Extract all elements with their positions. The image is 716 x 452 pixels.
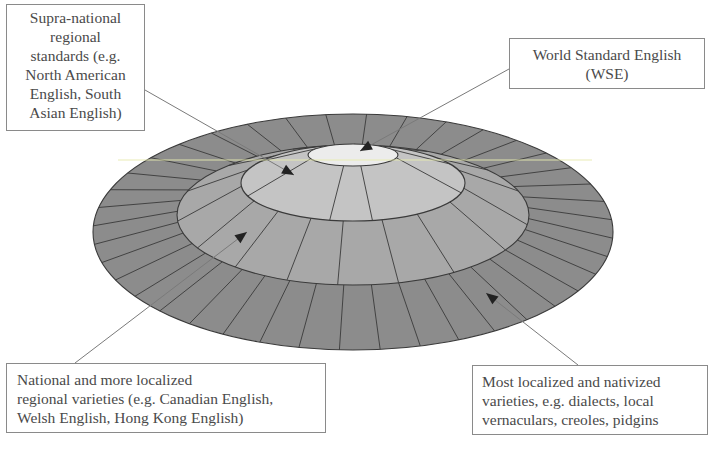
label-line: Most localized and nativized	[482, 372, 698, 391]
label-line: standards (e.g.	[13, 46, 138, 65]
label-line: National and more localized	[17, 370, 315, 389]
label-line: varieties, e.g. dialects, local	[482, 391, 698, 410]
label-line: regional varieties (e.g. Canadian Englis…	[17, 389, 315, 408]
label-line: English, South	[13, 84, 138, 103]
label-supranational-standards: Supra-national regional standards (e.g. …	[6, 4, 145, 131]
label-line: regional	[13, 27, 138, 46]
world-standard-english-core	[308, 144, 398, 166]
label-line: Welsh English, Hong Kong English)	[17, 408, 315, 427]
label-line: Supra-national	[13, 8, 138, 27]
world-englishes-diagram: Supra-national regional standards (e.g. …	[0, 0, 716, 452]
label-line: vernaculars, creoles, pidgins	[482, 410, 698, 429]
label-world-standard-english: World Standard English (WSE)	[509, 38, 705, 89]
label-line: (WSE)	[516, 64, 698, 83]
label-line: Asian English)	[13, 103, 138, 122]
label-line: North American	[13, 65, 138, 84]
label-national-varieties: National and more localized regional var…	[6, 363, 326, 433]
label-localized-varieties: Most localized and nativized varieties, …	[472, 365, 708, 435]
label-line: World Standard English	[516, 45, 698, 64]
